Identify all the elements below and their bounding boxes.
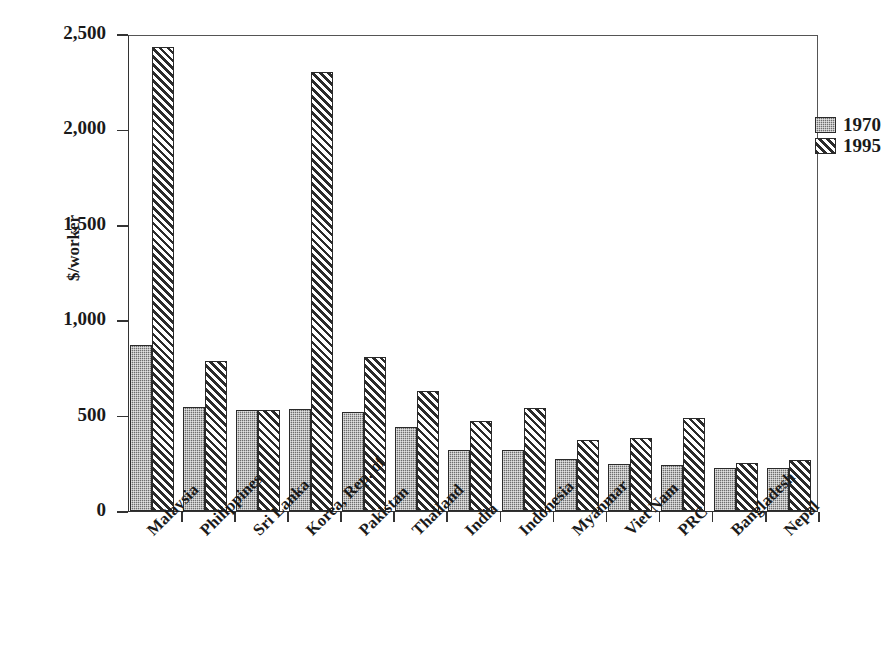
y-tick-label: 1,500 <box>63 213 106 235</box>
bar-bangladesh-1970 <box>714 468 736 512</box>
legend-item-1995: 1995 <box>815 135 881 156</box>
chart-legend: 19701995 <box>815 114 881 156</box>
y-tick-label: 1,000 <box>63 308 106 330</box>
y-tick-mark <box>117 225 128 227</box>
y-tick-mark <box>117 130 128 132</box>
bar-indonesia-1970 <box>502 450 524 511</box>
bar-thailand-1995 <box>417 391 439 511</box>
bar-prc-1995 <box>683 418 705 511</box>
x-tick <box>712 512 714 522</box>
y-axis-label: $/worker <box>64 168 84 328</box>
y-tick-label: 2,500 <box>63 22 106 44</box>
legend-swatch-1995 <box>815 138 836 154</box>
plot-area: 19701995 <box>128 35 818 512</box>
bar-sri-lanka-1995 <box>258 410 280 511</box>
bar-korea-rep-of-1995 <box>311 72 333 511</box>
bar-indonesia-1995 <box>524 408 546 511</box>
bar-india-1995 <box>470 421 492 511</box>
legend-label-1970: 1970 <box>843 114 881 135</box>
bar-philippines-1995 <box>205 361 227 511</box>
bar-malaysia-1970 <box>130 345 152 511</box>
y-tick-mark <box>117 511 128 513</box>
bar-malaysia-1995 <box>152 47 174 511</box>
y-tick-label: 2,000 <box>63 117 106 139</box>
y-tick-mark <box>117 320 128 322</box>
y-tick-label: 0 <box>97 499 107 521</box>
y-tick-mark <box>117 34 128 36</box>
legend-item-1970: 1970 <box>815 114 881 135</box>
y-tick-mark <box>117 416 128 418</box>
legend-swatch-1970 <box>815 117 836 133</box>
y-tick-label: 500 <box>78 404 107 426</box>
legend-label-1995: 1995 <box>843 135 881 156</box>
